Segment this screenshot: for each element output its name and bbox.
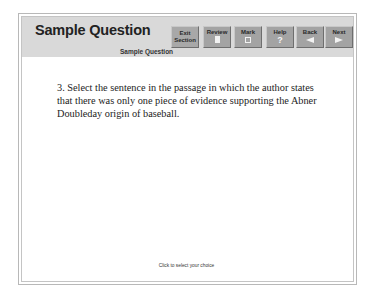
- arrow-right-icon: [335, 37, 343, 43]
- footer-hint: Click to select your choice: [0, 263, 373, 268]
- page-title: Sample Question: [35, 22, 150, 38]
- question-mark-icon: ?: [267, 36, 293, 45]
- help-button[interactable]: Help ?: [266, 26, 294, 48]
- header-bar: Sample Question Sample Question Exit Sec…: [22, 17, 353, 57]
- section-subtitle: Sample Question: [120, 48, 173, 55]
- checkbox-icon: [245, 37, 251, 43]
- back-button[interactable]: Back: [296, 26, 324, 48]
- back-label: Back: [297, 29, 323, 36]
- next-button[interactable]: Next: [325, 26, 353, 48]
- document-icon: [215, 36, 220, 43]
- mark-label: Mark: [235, 29, 261, 36]
- mark-button[interactable]: Mark: [234, 26, 262, 48]
- next-label: Next: [326, 29, 352, 36]
- exit-section-button[interactable]: Exit Section: [171, 26, 199, 48]
- review-button[interactable]: Review: [203, 26, 231, 48]
- question-text: 3. Select the sentence in the passage in…: [57, 81, 327, 120]
- arrow-left-icon: [306, 37, 314, 43]
- exit-label-line2: Section: [172, 37, 198, 44]
- review-label: Review: [204, 29, 230, 36]
